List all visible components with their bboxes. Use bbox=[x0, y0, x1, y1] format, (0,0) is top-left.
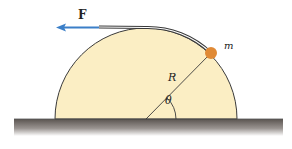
angle-label: θ bbox=[165, 95, 172, 106]
force-label: F bbox=[78, 9, 87, 21]
hemisphere-diagram bbox=[0, 0, 292, 149]
mass-particle bbox=[205, 47, 217, 59]
radius-label: R bbox=[168, 72, 176, 83]
mass-label: m bbox=[224, 41, 233, 51]
ground bbox=[14, 119, 283, 136]
hemisphere bbox=[55, 28, 237, 119]
